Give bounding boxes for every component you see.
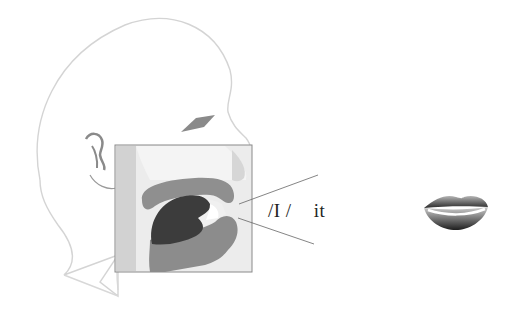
eye — [181, 115, 215, 132]
phoneme-symbol: /I / — [268, 200, 292, 221]
example-word: it — [314, 200, 326, 221]
vocal-tract-diagram — [0, 0, 529, 331]
phoneme-label: /I /it — [268, 200, 325, 222]
ear — [86, 134, 116, 189]
vocal-tract-cross-section — [115, 145, 252, 272]
lips-spread — [424, 196, 488, 230]
